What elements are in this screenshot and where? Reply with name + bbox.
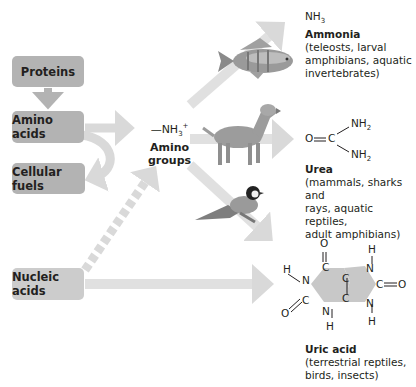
uric-acid-label: Uric acid (terrestrial reptiles, birds, … xyxy=(305,343,406,382)
amino-groups-name-1: Amino xyxy=(148,141,191,154)
amino-acids-label: Amino acids xyxy=(12,113,84,141)
proteins-label: Proteins xyxy=(21,65,75,79)
urea-o-atom: O xyxy=(305,132,313,144)
uric-acid-name: Uric acid xyxy=(305,343,406,356)
cellular-fuels-label: Cellular fuels xyxy=(12,165,85,193)
urea-nh2-top: NH2 xyxy=(351,117,371,132)
ammonia-organisms-2: amphibians, aquatic xyxy=(305,54,412,67)
ammonia-formula: NH3 xyxy=(305,10,412,28)
urea-nh2-bottom: NH2 xyxy=(351,148,371,163)
amino-groups-name-2: groups xyxy=(148,154,191,167)
ammonia-name: Ammonia xyxy=(305,28,412,41)
ammonia-organisms-3: invertebrates) xyxy=(305,67,412,80)
arrow-nucleic-acids-to-amino-groups xyxy=(85,175,150,270)
uric-acid-organisms-1: (terrestrial reptiles, xyxy=(305,356,406,369)
urea-label: Urea (mammals, sharks and rays, aquatic … xyxy=(305,163,416,241)
amino-group-formula: —NH3+ xyxy=(148,120,191,141)
urea-c-atom: C xyxy=(328,132,335,144)
ammonia-organisms-1: (teleosts, larval xyxy=(305,41,412,54)
uric-acid-organisms-2: birds, insects) xyxy=(305,369,406,382)
amino-groups-label: —NH3+ Amino groups xyxy=(148,120,191,167)
nucleic-acids-box: Nucleic acids xyxy=(12,268,84,300)
ammonia-label: NH3 Ammonia (teleosts, larval amphibians… xyxy=(305,10,412,80)
amino-acids-box: Amino acids xyxy=(12,111,84,143)
nucleic-acids-label: Nucleic acids xyxy=(12,270,84,298)
arrow-amino-acids-to-cellular-fuels xyxy=(82,135,110,177)
urea-organisms-1: (mammals, sharks and xyxy=(305,176,416,202)
proteins-box: Proteins xyxy=(12,56,84,87)
urea-name: Urea xyxy=(305,163,416,176)
cellular-fuels-box: Cellular fuels xyxy=(12,163,85,194)
urea-organisms-2: rays, aquatic reptiles, xyxy=(305,202,416,228)
